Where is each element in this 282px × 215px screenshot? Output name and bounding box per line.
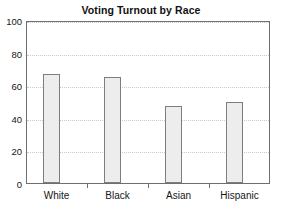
y-tick-label: 0	[0, 179, 22, 190]
x-tick-label-black: Black	[105, 190, 129, 201]
bar-hispanic	[226, 102, 243, 184]
bars-layer	[27, 22, 269, 183]
y-tick-label: 60	[0, 81, 22, 92]
x-axis-tick	[209, 184, 210, 188]
bar-asian	[165, 106, 182, 183]
x-axis: WhiteBlackAsianHispanic	[26, 190, 270, 208]
x-axis-tick	[148, 184, 149, 188]
bar-white	[43, 74, 60, 183]
x-tick-label-white: White	[44, 190, 70, 201]
plot-area	[26, 21, 270, 184]
y-axis: 020406080100	[0, 21, 22, 184]
y-tick-label: 80	[0, 48, 22, 59]
x-axis-ticks	[26, 184, 270, 189]
bar-black	[104, 77, 121, 183]
bar-chart: Voting Turnout by Race 020406080100 Whit…	[0, 0, 282, 215]
x-axis-tick	[87, 184, 88, 188]
y-tick-label: 20	[0, 146, 22, 157]
x-tick-label-asian: Asian	[166, 190, 191, 201]
y-tick-label: 100	[0, 16, 22, 27]
y-tick-label: 40	[0, 113, 22, 124]
x-tick-label-hispanic: Hispanic	[220, 190, 258, 201]
chart-title: Voting Turnout by Race	[0, 4, 282, 16]
